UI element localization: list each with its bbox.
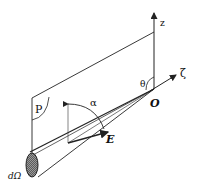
- z-axis-label: z: [160, 19, 165, 28]
- diagram-svg: [0, 0, 197, 189]
- theta-arc: [146, 77, 154, 90]
- alpha-label: α: [90, 98, 97, 108]
- plane-label: P: [35, 104, 42, 115]
- e-vector: [68, 132, 108, 143]
- theta-label: θ: [140, 80, 145, 89]
- solid-angle-disc: [26, 153, 38, 177]
- diagram-canvas: z ζ O θ α P E dΩ: [0, 0, 197, 189]
- solid-angle-label: dΩ: [8, 172, 21, 181]
- origin-label: O: [150, 98, 160, 109]
- field-label: E: [106, 134, 114, 145]
- plane-top-edge: [32, 32, 154, 98]
- zeta-axis-label: ζ: [180, 68, 186, 79]
